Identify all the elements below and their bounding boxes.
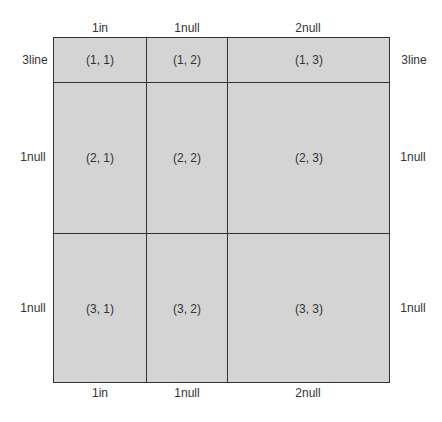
cell-1-1: (1, 1) <box>86 53 114 67</box>
column-spec-bottom-3: 2null <box>295 386 320 400</box>
cell-2-2: (2, 2) <box>173 151 201 165</box>
cell-2-1: (2, 1) <box>86 151 114 165</box>
cell-3-2: (3, 2) <box>173 302 201 316</box>
cell-2-3: (2, 3) <box>295 151 323 165</box>
cell-1-2: (1, 2) <box>173 53 201 67</box>
column-spec-bottom-2: 1null <box>174 386 199 400</box>
column-divider-2 <box>227 38 228 382</box>
column-spec-top-1: 1in <box>92 21 108 35</box>
column-spec-bottom-1: 1in <box>92 386 108 400</box>
column-spec-top-2: 1null <box>174 21 199 35</box>
layout-grid: (1, 1) (1, 2) (1, 3) (2, 1) (2, 2) (2, 3… <box>53 37 390 383</box>
column-spec-top-3: 2null <box>295 21 320 35</box>
row-spec-right-2: 1null <box>400 150 425 164</box>
row-divider-1 <box>54 82 389 83</box>
row-spec-right-3: 1null <box>400 301 425 315</box>
row-spec-right-1: 3line <box>401 53 426 67</box>
cell-1-3: (1, 3) <box>295 53 323 67</box>
column-divider-1 <box>146 38 147 382</box>
row-divider-2 <box>54 233 389 234</box>
row-spec-left-3: 1null <box>20 301 45 315</box>
row-spec-left-1: 3line <box>22 53 47 67</box>
cell-3-3: (3, 3) <box>295 302 323 316</box>
row-spec-left-2: 1null <box>20 150 45 164</box>
cell-3-1: (3, 1) <box>86 302 114 316</box>
